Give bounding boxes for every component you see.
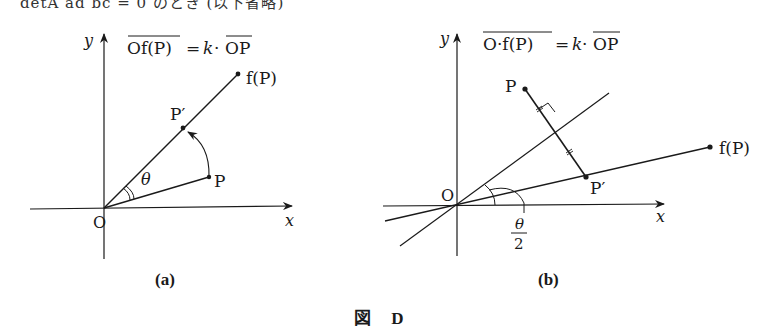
svg-text:OP: OP bbox=[225, 38, 250, 58]
point-P-b bbox=[522, 86, 527, 91]
x-axis-label-a: x bbox=[285, 211, 294, 230]
fP-label-a: f(P) bbox=[246, 68, 277, 88]
svg-text:O·f(P): O·f(P) bbox=[483, 34, 533, 54]
x-axis bbox=[30, 206, 292, 209]
svg-text:Of(P): Of(P) bbox=[127, 38, 172, 58]
svg-text:=: = bbox=[186, 38, 200, 58]
panel-a-caption: (a) bbox=[155, 270, 175, 290]
rotation-arc bbox=[188, 132, 209, 177]
theta-label-a: θ bbox=[141, 170, 151, 189]
svg-text:k: k bbox=[203, 38, 213, 58]
origin-label-b: O bbox=[441, 186, 454, 205]
right-angle-mark bbox=[539, 103, 555, 112]
svg-text:·: · bbox=[582, 34, 587, 54]
Pprime-label-b: P′ bbox=[590, 178, 605, 198]
x-axis-label-b: x bbox=[656, 207, 665, 226]
svg-text:k: k bbox=[572, 34, 582, 54]
point-Pprime-b bbox=[583, 174, 588, 179]
angle-arc-inner bbox=[123, 188, 130, 200]
P-label-b: P bbox=[505, 76, 516, 96]
point-Pprime-a bbox=[181, 126, 186, 131]
origin-label-a: O bbox=[93, 213, 106, 232]
point-fP-a bbox=[236, 72, 241, 77]
y-axis-label-a: y bbox=[83, 31, 94, 50]
angle-arc-theta-half bbox=[485, 185, 495, 205]
point-P-a bbox=[207, 175, 211, 179]
segment-PPprime bbox=[525, 89, 586, 177]
bisector-line bbox=[400, 93, 609, 246]
panel-b-caption: (b) bbox=[538, 270, 559, 290]
figure-caption: 図 D bbox=[354, 304, 412, 329]
formula-b: O·f(P) = k · OP bbox=[483, 32, 620, 54]
formula-a: Of(P) = k · OP bbox=[127, 36, 252, 58]
point-fP-b bbox=[707, 144, 712, 149]
svg-text:·: · bbox=[214, 38, 219, 58]
figure-d: Of(P) = k · OP y x O f(P) P′ P θ O·f(P) … bbox=[0, 0, 777, 329]
svg-text:=: = bbox=[555, 34, 569, 54]
theta-half-label: θ 2 bbox=[511, 215, 527, 253]
svg-text:θ: θ bbox=[515, 215, 524, 233]
svg-text:2: 2 bbox=[514, 235, 524, 253]
Pprime-label-a: P′ bbox=[170, 104, 185, 124]
fP-label-b: f(P) bbox=[719, 138, 750, 158]
P-label-a: P bbox=[214, 171, 225, 191]
y-axis-label-b: y bbox=[439, 29, 450, 48]
svg-text:OP: OP bbox=[593, 34, 618, 54]
